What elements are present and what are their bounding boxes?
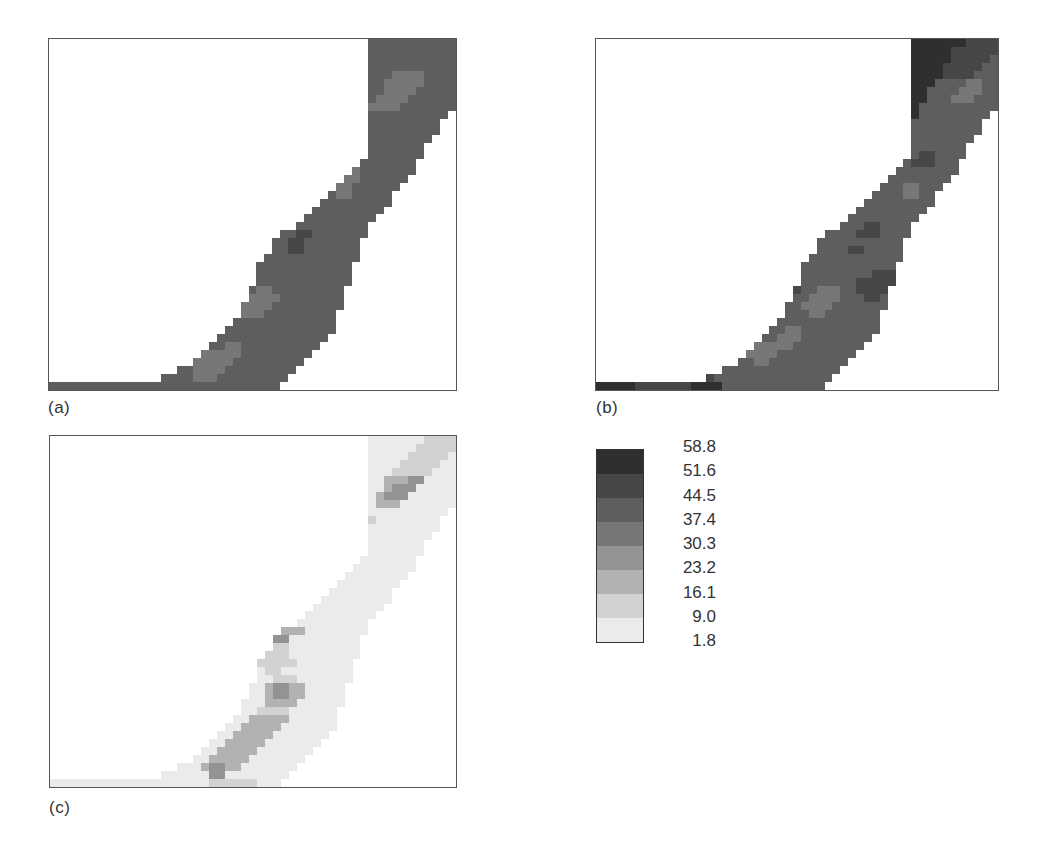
legend-band <box>597 450 643 474</box>
legend-band <box>597 618 643 642</box>
panel-label-b: (b) <box>596 398 618 418</box>
legend-tick-label: 1.8 <box>692 631 716 651</box>
raster-map-c <box>50 436 456 787</box>
legend-tick-label: 58.8 <box>683 437 716 457</box>
panel-label-a: (a) <box>48 398 70 418</box>
panel-label-c: (c) <box>49 798 70 818</box>
legend-tick-label: 51.6 <box>683 461 716 481</box>
legend-band <box>597 498 643 522</box>
legend-tick-label: 16.1 <box>683 583 716 603</box>
legend-band <box>597 474 643 498</box>
map-panel-c <box>49 435 457 788</box>
map-panel-b <box>595 38 999 391</box>
legend-tick-label: 9.0 <box>692 607 716 627</box>
legend-tick-label: 44.5 <box>683 486 716 506</box>
raster-map-a <box>49 39 456 390</box>
map-panel-a <box>48 38 457 391</box>
legend-band <box>597 546 643 570</box>
legend-band <box>597 522 643 546</box>
legend-band <box>597 594 643 618</box>
legend-band <box>597 570 643 594</box>
legend-tick-label: 30.3 <box>683 534 716 554</box>
legend-tick-label: 23.2 <box>683 558 716 578</box>
legend-tick-label: 37.4 <box>683 510 716 530</box>
raster-map-b <box>596 39 998 390</box>
color-legend-bar <box>596 449 644 643</box>
